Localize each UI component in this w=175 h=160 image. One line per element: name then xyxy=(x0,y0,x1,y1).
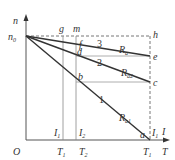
tick-T1-right: T1 xyxy=(143,146,152,158)
tick-T1-left: T1 xyxy=(57,146,66,158)
resistor-a2-label: Ra2 xyxy=(120,67,133,79)
tick-I2: I2 xyxy=(78,127,85,139)
n0-label: n0 xyxy=(8,31,16,43)
tick-I1-right: I1 xyxy=(151,127,158,139)
point-c-label: c xyxy=(153,77,158,88)
speed-characteristic-diagram: n n0 O I T g m h f d e c b a 3 2 1 Ra Ra… xyxy=(0,0,175,160)
origin-label: O xyxy=(13,146,20,157)
point-g-label: g xyxy=(59,23,64,34)
point-b-label: b xyxy=(78,71,83,82)
point-d-label: d xyxy=(77,46,83,57)
resistor-a1-label: Ra1 xyxy=(118,112,131,124)
point-a-label: a xyxy=(140,129,145,140)
point-h-label: h xyxy=(153,29,158,40)
x-axis-label-current: I xyxy=(161,126,166,137)
line-2-number: 2 xyxy=(97,57,102,68)
y-axis-arrow-icon xyxy=(24,14,29,21)
x-axis-label-torque: T xyxy=(162,146,169,157)
tick-T2: T2 xyxy=(79,146,88,158)
line-1-number: 1 xyxy=(99,94,104,105)
resistor-a-label: Ra xyxy=(118,44,128,56)
point-m-label: m xyxy=(73,23,80,34)
characteristic-line-1 xyxy=(26,36,150,140)
x-axis-arrow-icon xyxy=(163,138,170,143)
tick-I1-left: I1 xyxy=(53,127,60,139)
line-3-number: 3 xyxy=(97,38,102,49)
characteristic-line-3 xyxy=(26,36,150,56)
y-axis-label: n xyxy=(13,15,18,26)
point-e-label: e xyxy=(153,51,158,62)
